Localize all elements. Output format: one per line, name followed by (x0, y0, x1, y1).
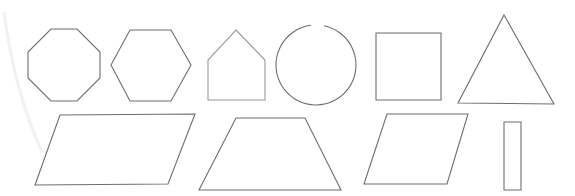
parallelogram-large-shape (35, 114, 195, 185)
octagon-shape (28, 29, 100, 101)
hexagon-shape (111, 30, 191, 101)
circle-shape (276, 25, 356, 105)
shapes-canvas (0, 0, 575, 196)
parallelogram-small-shape (364, 114, 468, 184)
rectangle-shape (504, 122, 521, 190)
pentagon-shape (208, 30, 265, 100)
trapezoid-shape (199, 118, 341, 190)
triangle-shape (458, 15, 554, 104)
square-shape (376, 33, 441, 100)
scan-artifact-curve (4, 12, 42, 152)
